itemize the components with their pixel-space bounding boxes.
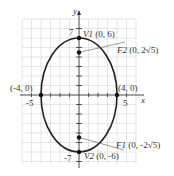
vertex-v1-dot: [77, 36, 81, 40]
focus-f2-dot: [77, 50, 81, 54]
x-tick-5: 5: [123, 98, 128, 108]
left-covertex-label: (-4, 0): [10, 83, 33, 93]
covertex-left-dot: [39, 93, 43, 97]
ellipse-diagram: y x 7 -7 -5 5 V1 (0, 6) V2 (0, -6) F2 (0…: [0, 0, 174, 176]
v1-label: V1 (0, 6): [83, 29, 115, 39]
x-axis-label: x: [140, 95, 145, 105]
focus-f1-dot: [77, 135, 81, 139]
y-tick-neg7: -7: [64, 153, 72, 163]
v2-label: V2 (0, -6): [84, 151, 119, 161]
y-axis-arrow-icon: [77, 10, 81, 15]
y-axis-label: y: [72, 6, 77, 16]
f1-label: F1 (0, -2√5): [115, 140, 160, 150]
covertex-right-dot: [115, 93, 119, 97]
y-tick-7: 7: [69, 27, 74, 37]
f2-label: F2 (0, 2√5): [116, 45, 158, 55]
vertex-v2-dot: [77, 150, 81, 154]
right-covertex-label: (4, 0): [118, 83, 138, 93]
x-tick-neg5: -5: [26, 98, 34, 108]
